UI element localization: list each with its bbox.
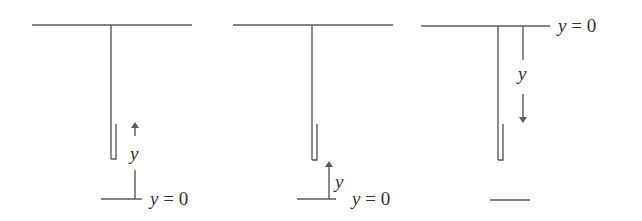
- panel-3: y = 0 y: [421, 15, 596, 200]
- origin-label: y = 0: [350, 188, 390, 209]
- u-tube: [111, 124, 116, 159]
- u-tube: [498, 124, 503, 160]
- axis-label-y: y: [333, 171, 344, 192]
- diagram-canvas: y y = 0 y y = 0 y = 0 y: [0, 0, 642, 221]
- u-tube: [312, 124, 317, 160]
- panel-1: y y = 0: [32, 25, 192, 209]
- panel-2: y y = 0: [233, 25, 393, 209]
- origin-label: y = 0: [148, 188, 188, 209]
- axis-label-y: y: [128, 143, 139, 164]
- origin-label: y = 0: [556, 15, 596, 36]
- axis-label-y: y: [516, 63, 527, 84]
